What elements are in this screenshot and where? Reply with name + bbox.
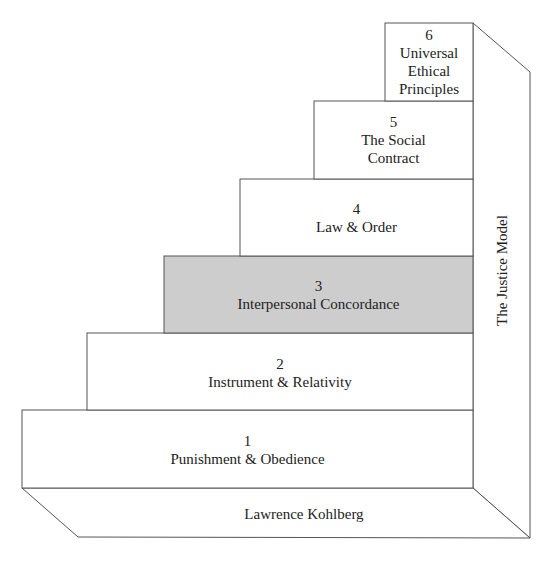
step-label: Universal Ethical Principles — [389, 44, 469, 98]
step-label: Instrument & Relativity — [208, 373, 351, 391]
step-label: Punishment & Obedience — [170, 450, 324, 468]
step-number: 2 — [276, 355, 284, 373]
step-number: 6 — [425, 26, 433, 44]
side-label: The Justice Model — [478, 60, 526, 480]
step-number: 5 — [390, 113, 398, 131]
justice-model-label: The Justice Model — [494, 215, 511, 326]
step-number: 1 — [244, 432, 252, 450]
step-label: Law & Order — [316, 218, 397, 236]
step-number: 3 — [315, 277, 323, 295]
author-label: Lawrence Kohlberg — [244, 506, 363, 523]
step-label: Interpersonal Concordance — [237, 295, 399, 313]
step-4: 4 Law & Order — [240, 188, 473, 248]
step-1: 1 Punishment & Obedience — [22, 420, 473, 480]
step-2: 2 Instrument & Relativity — [87, 343, 473, 403]
base-label: Lawrence Kohlberg — [78, 492, 530, 536]
step-6: 6 Universal Ethical Principles — [385, 23, 473, 101]
step-3: 3 Interpersonal Concordance — [164, 265, 473, 325]
step-number: 4 — [353, 200, 361, 218]
step-5: 5 The Social Contract — [314, 101, 473, 179]
step-label: The Social Contract — [354, 131, 433, 167]
